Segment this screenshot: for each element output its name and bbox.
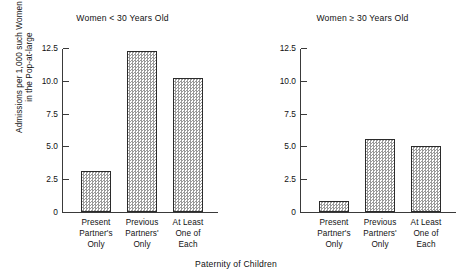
panel-women-30-and-over: Women ≥ 30 Years Old 0 2.5 5.0 7.5 xyxy=(268,0,472,280)
y-tick-label-1-left: 2.5 xyxy=(32,174,58,184)
x-tick-label-2-right: At Least One of Each xyxy=(397,217,455,251)
panel-title-right: Women ≥ 30 Years Old xyxy=(270,13,455,23)
y-tick-label-4-left: 10.0 xyxy=(32,76,58,86)
y-tick-label-3-left: 7.5 xyxy=(32,109,58,119)
bar-group-right xyxy=(301,45,456,212)
x-tick-label-2-left-line3: Each xyxy=(159,239,217,250)
y-tick-label-2-left: 5.0 xyxy=(32,141,58,151)
y-axis-title-line1: Admissions per 1,000 such Women xyxy=(15,1,24,133)
y-tick-label-2-right: 5.0 xyxy=(270,141,296,151)
y-tick-label-0-right: 0 xyxy=(270,207,296,217)
x-tick-label-2-right-line2: One of xyxy=(397,228,455,239)
y-tick-0-right: 0 xyxy=(300,212,308,213)
plot-area-right: 0 2.5 5.0 7.5 10.0 12.5 xyxy=(300,45,455,213)
x-tick-label-2-left-line2: One of xyxy=(159,228,217,239)
bar-right-present-partners-only xyxy=(319,201,349,212)
x-axis-line-left xyxy=(62,212,218,213)
x-axis-title: Paternity of Children xyxy=(0,259,472,269)
x-tick-label-2-right-line1: At Least xyxy=(397,217,455,228)
y-tick-label-0-left: 0 xyxy=(32,207,58,217)
plot-area-left: 0 2.5 5.0 7.5 10.0 12.5 xyxy=(62,45,217,213)
x-tick-labels-right: Present Partner's Only Previous Partners… xyxy=(301,217,456,261)
bar-left-present-partners-only xyxy=(81,171,111,212)
bar-group-left xyxy=(63,45,218,212)
x-tick-label-2-left: At Least One of Each xyxy=(159,217,217,251)
x-tick-label-2-left-line1: At Least xyxy=(159,217,217,228)
y-tick-0-left: 0 xyxy=(62,212,70,213)
bar-right-previous-partners-only xyxy=(365,139,395,212)
y-tick-label-5-left: 12.5 xyxy=(32,43,58,53)
bar-left-previous-partners-only xyxy=(127,51,157,212)
x-tick-labels-left: Present Partner's Only Previous Partners… xyxy=(63,217,218,261)
panel-women-under-30: Women < 30 Years Old 0 2.5 5.0 7.5 xyxy=(30,0,240,280)
y-tick-label-4-right: 10.0 xyxy=(270,76,296,86)
panel-title-left: Women < 30 Years Old xyxy=(30,13,215,23)
x-axis-line-right xyxy=(300,212,456,213)
bar-left-at-least-one-of-each xyxy=(173,78,203,212)
x-tick-label-2-right-line3: Each xyxy=(397,239,455,250)
y-tick-label-5-right: 12.5 xyxy=(270,43,296,53)
bar-right-at-least-one-of-each xyxy=(411,146,441,212)
y-tick-label-1-right: 2.5 xyxy=(270,174,296,184)
chart-figure: Admissions per 1,000 such Women in the P… xyxy=(0,0,472,280)
y-tick-label-3-right: 7.5 xyxy=(270,109,296,119)
